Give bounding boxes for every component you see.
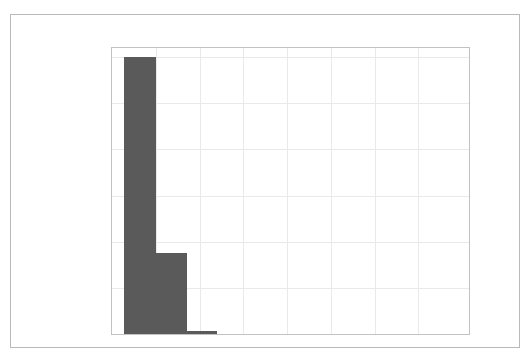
- x-axis-tick-mark: [418, 334, 419, 335]
- x-axis-tick-mark: [287, 334, 288, 335]
- figure-frame: 0500010000150002000025000300000204060801…: [10, 14, 520, 348]
- x-axis-tick-mark: [200, 334, 201, 335]
- x-axis-tick-mark: [243, 334, 244, 335]
- x-axis-tick-mark: [331, 334, 332, 335]
- x-axis-tick-mark: [156, 334, 157, 335]
- x-axis-tick-mark: [112, 334, 113, 335]
- y-axis-tick-mark: [111, 334, 112, 335]
- histogram-bar: [124, 57, 156, 334]
- histogram-bar: [187, 331, 217, 334]
- histogram-bar: [156, 253, 188, 334]
- x-axis-tick-mark: [375, 334, 376, 335]
- figure-root: 0500010000150002000025000300000204060801…: [0, 0, 530, 363]
- histogram-bars: [112, 48, 469, 334]
- plot-area: 0500010000150002000025000300000204060801…: [111, 47, 470, 335]
